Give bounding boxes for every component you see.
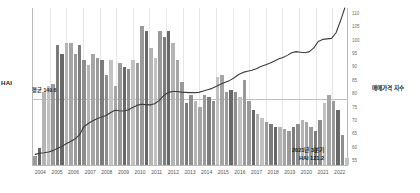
right-tick-label: 105	[352, 24, 374, 29]
end-annotation-period: 2021년 3분기	[292, 146, 324, 154]
right-axis-title: 매매가격 지수	[372, 84, 404, 92]
average-annotation: 평균 149.6	[32, 86, 56, 93]
end-annotation-value: HAI 121.2	[292, 154, 324, 162]
price-index-line	[35, 8, 345, 154]
right-tick-label: 80	[352, 91, 374, 96]
chart-container: HAI 매매가격 지수 1901851801751701651601551501…	[0, 0, 420, 193]
end-point-annotation: 2021년 3분기 HAI 121.2	[292, 146, 324, 162]
x-tick-label: 2022	[329, 169, 351, 175]
right-tick-label: 65	[352, 131, 374, 136]
right-tick-label: 90	[352, 64, 374, 69]
line-series	[33, 8, 347, 165]
right-tick-label: 75	[352, 105, 374, 110]
right-tick-label: 100	[352, 38, 374, 43]
right-tick-label: 70	[352, 118, 374, 123]
left-axis-title: HAI	[1, 79, 12, 86]
plot-area	[32, 8, 348, 166]
right-tick-label: 95	[352, 51, 374, 56]
right-tick-label: 55	[352, 158, 374, 163]
right-tick-label: 110	[352, 11, 374, 16]
right-tick-label: 60	[352, 145, 374, 150]
right-tick-label: 85	[352, 78, 374, 83]
